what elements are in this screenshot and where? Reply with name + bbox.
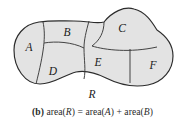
diagram-svg: A B C D E F R [0,0,185,100]
region-label-D: D [48,65,58,77]
region-label-E: E [93,56,101,68]
region-label-R: R [87,88,95,100]
region-label-F: F [148,59,157,71]
caption-close3: ) [150,106,153,117]
caption-close2: ) + area( [111,106,144,117]
region-label-C: C [118,22,126,34]
figure-container: A B C D E F R (b)area(R) = area(A) + are… [0,0,185,121]
caption-close1: ) = area( [72,106,105,117]
figure-caption: (b)area(R) = area(A) + area(B) [0,101,185,121]
caption-tag: (b) [32,106,44,117]
region-label-A: A [24,41,33,53]
region-label-B: B [63,26,70,38]
region-diagram: A B C D E F R [0,0,185,100]
caption-area1: area( [46,106,65,117]
